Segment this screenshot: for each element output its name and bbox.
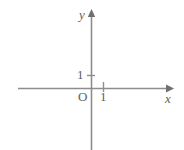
y-axis-arrowhead <box>88 9 95 17</box>
coordinate-axes-figure: y x O 1 1 <box>0 0 184 150</box>
y-axis-label: y <box>79 8 85 21</box>
axes-svg <box>0 0 184 150</box>
origin-label: O <box>78 90 87 103</box>
x-axis-tick-label-1: 1 <box>100 90 107 103</box>
y-axis-tick-label-1: 1 <box>77 68 84 81</box>
x-axis-label: x <box>165 92 171 105</box>
